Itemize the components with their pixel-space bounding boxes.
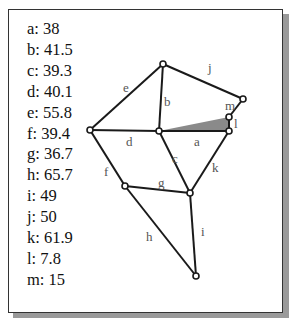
joint-node: [187, 190, 193, 196]
edge-d: [90, 130, 159, 131]
edge-b: [159, 64, 163, 131]
edge-label-l: l: [234, 116, 238, 131]
edge-label-i: i: [201, 224, 205, 239]
joint-node: [226, 114, 232, 120]
linkage-diagram: abcdefghijklm: [0, 0, 296, 323]
edge-label-f: f: [104, 164, 109, 179]
edge-label-c: c: [172, 151, 178, 166]
joint-node: [122, 183, 128, 189]
joint-node: [156, 128, 162, 134]
edge-label-m: m: [225, 98, 235, 113]
edge-i: [190, 193, 196, 276]
edge-label-g: g: [158, 175, 165, 190]
joint-node: [87, 127, 93, 133]
shaded-triangle: [159, 117, 229, 131]
edge-e: [90, 64, 163, 130]
edge-h: [125, 186, 196, 276]
joint-node: [160, 61, 166, 67]
edge-label-k: k: [212, 160, 219, 175]
joint-node: [240, 96, 246, 102]
joint-node: [193, 273, 199, 279]
edge-label-d: d: [126, 134, 133, 149]
edge-j: [163, 64, 243, 99]
edge-label-a: a: [194, 134, 200, 149]
joint-node: [226, 128, 232, 134]
edge-label-e: e: [123, 80, 129, 95]
edge-label-b: b: [164, 94, 171, 109]
edge-label-j: j: [207, 60, 212, 75]
edge-label-h: h: [146, 229, 153, 244]
